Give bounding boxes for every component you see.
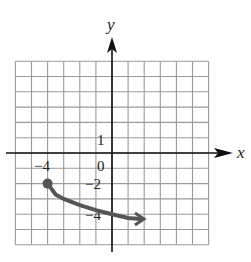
y-axis-label: y xyxy=(105,15,115,34)
tick-label-y-1: 1 xyxy=(97,132,105,148)
tick-label-y-minus-2: −2 xyxy=(85,176,101,192)
x-axis-label: x xyxy=(236,143,245,162)
tick-label-origin: 0 xyxy=(97,158,105,174)
start-point-dot xyxy=(43,179,53,189)
graph: x y 1 0 −2 −4 −4 xyxy=(0,0,251,262)
tick-label-x-minus-4: −4 xyxy=(34,158,50,174)
